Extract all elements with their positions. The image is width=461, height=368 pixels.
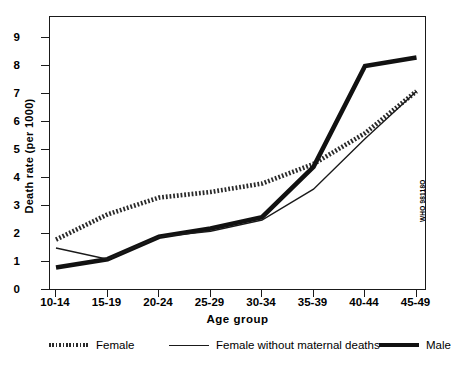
source-code-label: WHO 98118O bbox=[419, 162, 426, 222]
y-tick-mark bbox=[41, 93, 49, 94]
y-tick-mark bbox=[41, 289, 49, 290]
legend-swatch-line bbox=[49, 343, 89, 347]
x-tick-mark bbox=[313, 290, 314, 297]
y-axis-title: Death rate (per 1000) bbox=[23, 41, 35, 271]
legend-swatch-dotted bbox=[49, 339, 89, 351]
series-line-male bbox=[56, 58, 417, 268]
legend-label: Male bbox=[426, 339, 451, 351]
legend-item: Female bbox=[49, 336, 134, 354]
legend-item: Female without maternal deaths bbox=[169, 336, 380, 354]
x-tick-mark bbox=[261, 290, 262, 297]
y-tick-label: 0 bbox=[0, 283, 20, 295]
series-line-female bbox=[56, 91, 417, 239]
y-tick-mark bbox=[41, 177, 49, 178]
x-tick-mark bbox=[55, 290, 56, 297]
x-tick-mark bbox=[158, 290, 159, 297]
y-tick-label: 8 bbox=[0, 59, 20, 71]
legend-swatch-thick bbox=[379, 339, 419, 351]
x-tick-mark bbox=[364, 290, 365, 297]
y-tick-mark bbox=[41, 121, 49, 122]
legend-swatch-thin bbox=[169, 339, 209, 351]
legend-swatch-line bbox=[379, 343, 419, 347]
x-tick-mark bbox=[416, 290, 417, 297]
y-tick-mark bbox=[41, 65, 49, 66]
y-tick-label: 1 bbox=[0, 255, 20, 267]
y-tick-label: 6 bbox=[0, 115, 20, 127]
series-line-female-without-maternal-deaths bbox=[56, 91, 417, 259]
y-tick-mark bbox=[41, 37, 49, 38]
x-tick-mark bbox=[210, 290, 211, 297]
y-tick-label: 9 bbox=[0, 31, 20, 43]
chart-figure: Death rate (per 1000) 0123456789 10-1415… bbox=[0, 0, 461, 368]
x-tick-label: 45-49 bbox=[384, 296, 448, 308]
y-tick-label: 3 bbox=[0, 199, 20, 211]
y-tick-mark bbox=[41, 205, 49, 206]
chart-legend: FemaleFemale without maternal deathsMale bbox=[49, 336, 449, 356]
y-tick-label: 5 bbox=[0, 143, 20, 155]
y-tick-mark bbox=[41, 149, 49, 150]
y-tick-label: 2 bbox=[0, 227, 20, 239]
legend-swatch-line bbox=[169, 345, 209, 346]
x-tick-mark bbox=[107, 290, 108, 297]
y-tick-label: 7 bbox=[0, 87, 20, 99]
legend-label: Female without maternal deaths bbox=[216, 339, 380, 351]
y-tick-label: 4 bbox=[0, 171, 20, 183]
plot-area bbox=[49, 16, 426, 290]
legend-label: Female bbox=[96, 339, 134, 351]
x-axis-title: Age group bbox=[49, 313, 426, 325]
legend-item: Male bbox=[379, 336, 451, 354]
series-canvas bbox=[50, 17, 427, 291]
y-tick-mark bbox=[41, 233, 49, 234]
y-tick-mark bbox=[41, 261, 49, 262]
